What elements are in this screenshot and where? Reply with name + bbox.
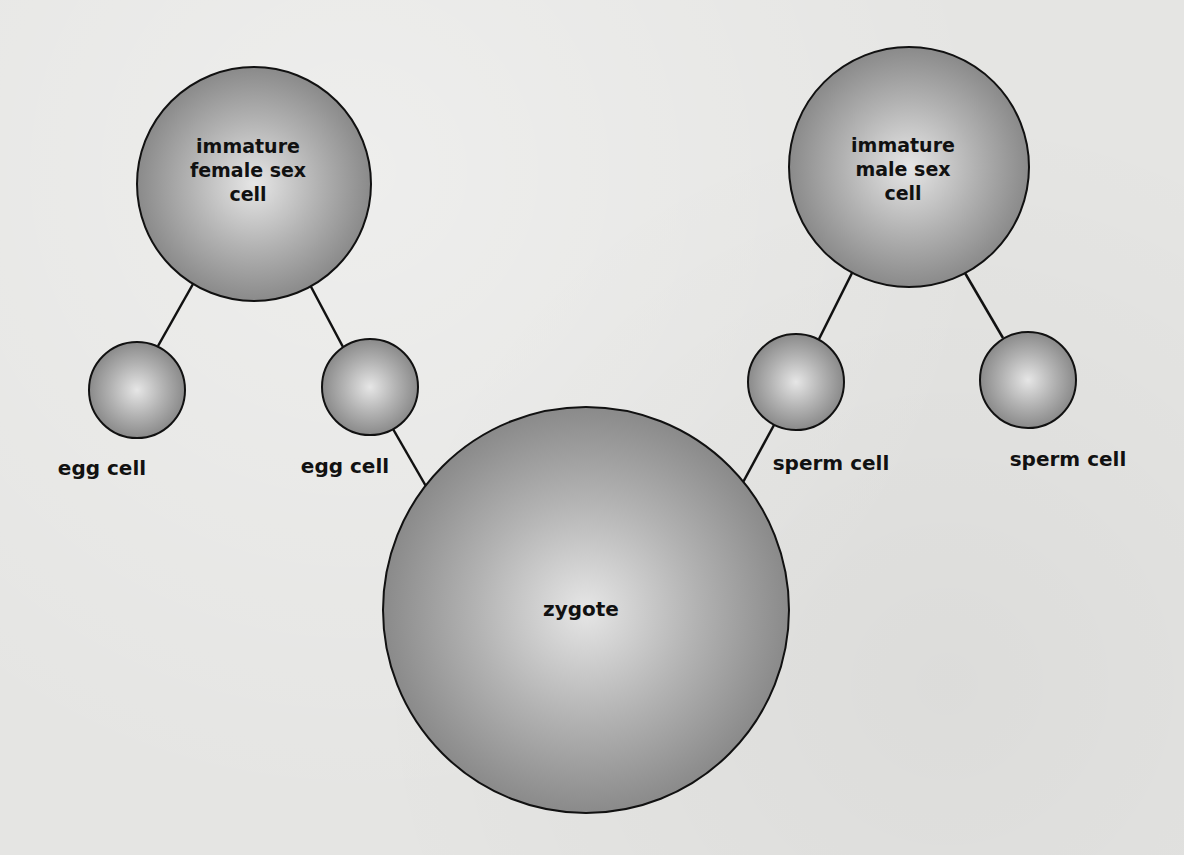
- label-egg-cell-2: egg cell: [301, 454, 389, 478]
- edge-egg2-to-zygote: [393, 429, 427, 488]
- label-immature-female-sex-cell: immature female sex cell: [190, 134, 306, 206]
- edge-sperm1-to-zygote: [741, 425, 774, 486]
- sperm-cell-2: [980, 332, 1076, 428]
- edge-female-to-egg2: [309, 283, 343, 347]
- edge-female-to-egg1: [158, 284, 193, 346]
- sperm-cell-1: [748, 334, 844, 430]
- label-sperm-cell-2: sperm cell: [1010, 447, 1127, 471]
- label-immature-male-sex-cell: immature male sex cell: [851, 133, 955, 205]
- egg-cell-1: [89, 342, 185, 438]
- edge-male-to-sperm1: [819, 273, 852, 339]
- diagram-graphics: [0, 0, 1184, 855]
- egg-cell-2: [322, 339, 418, 435]
- label-egg-cell-1: egg cell: [58, 456, 146, 480]
- label-zygote: zygote: [543, 597, 619, 621]
- edge-male-to-sperm2: [965, 273, 1003, 338]
- label-sperm-cell-1: sperm cell: [773, 451, 890, 475]
- diagram-canvas: immature female sex cell immature male s…: [0, 0, 1184, 855]
